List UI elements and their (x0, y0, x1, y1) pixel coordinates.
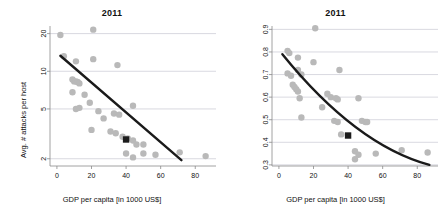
scatter-point (310, 59, 316, 65)
scatter-point (152, 152, 158, 158)
scatter-point (81, 91, 87, 97)
scatter-point (140, 150, 146, 156)
scatter-point (338, 131, 344, 137)
scatter-point (87, 100, 93, 106)
scatter-point (123, 150, 129, 156)
scatter-point (90, 26, 96, 32)
scatter-point (288, 72, 294, 78)
x-axis-tick-label: 0 (277, 172, 281, 179)
x-axis-tick-label: 60 (157, 172, 165, 179)
scatter-point (373, 150, 379, 156)
y-axis-tick-label: 10 (41, 67, 48, 75)
scatter-point (76, 105, 82, 111)
scatter-point (335, 96, 341, 102)
scatter-point (286, 50, 292, 56)
scatter-point (133, 141, 139, 147)
scatter-point (130, 154, 136, 160)
plot-area-left: 251020020406080 (0, 0, 224, 218)
y-axis-tick-label: 0.4 (263, 137, 270, 147)
scatter-point (116, 111, 122, 117)
scatter-point (140, 141, 146, 147)
scatter-point (76, 80, 82, 86)
plot-area-right: 0.30.40.50.60.70.80.9020406080 (224, 0, 447, 218)
y-axis-tick-label: 0.8 (263, 47, 270, 57)
x-axis-tick-label: 20 (310, 172, 318, 179)
x-axis-tick-label: 40 (344, 172, 352, 179)
y-axis-tick-label: 0.9 (263, 24, 270, 34)
y-axis-tick-label: 0.5 (263, 115, 270, 125)
y-axis-tick-label: 2 (41, 157, 48, 161)
x-axis-tick-label: 0 (55, 172, 59, 179)
scatter-point (295, 88, 301, 94)
y-axis-tick-label: 0.6 (263, 92, 270, 102)
x-axis-label-left: GDP per capita [in 1000 US$] (0, 195, 224, 204)
scatter-point (352, 156, 358, 162)
scatter-point (364, 119, 370, 125)
chart-panel-left: 2011 Avg. # attacks per host 25102002040… (0, 0, 224, 218)
scatter-point (336, 67, 342, 73)
figure-container: 2011 Avg. # attacks per host 25102002040… (0, 0, 447, 218)
x-axis-tick-label: 20 (88, 172, 96, 179)
y-axis-tick-label: 0.3 (263, 160, 270, 170)
y-axis-tick-label: 0.7 (263, 70, 270, 80)
y-axis-tick-label: 20 (41, 30, 48, 38)
x-axis-tick-label: 40 (122, 172, 130, 179)
scatter-point (398, 147, 404, 153)
x-axis-tick-label: 60 (379, 172, 387, 179)
highlight-marker (345, 132, 351, 138)
scatter-point (57, 32, 63, 38)
scatter-point (202, 153, 208, 159)
scatter-point (335, 119, 341, 125)
scatter-point (319, 104, 325, 110)
scatter-point (295, 54, 301, 60)
scatter-point (73, 58, 79, 64)
scatter-point (100, 115, 106, 121)
y-axis-tick-label: 5 (41, 107, 48, 111)
x-axis-tick-label: 80 (413, 172, 421, 179)
scatter-point (176, 149, 182, 155)
highlight-marker (123, 136, 129, 142)
scatter-point (88, 127, 94, 133)
scatter-point (355, 95, 361, 101)
scatter-point (90, 56, 96, 62)
scatter-point (296, 95, 302, 101)
scatter-point (113, 130, 119, 136)
x-axis-tick-label: 80 (191, 172, 199, 179)
scatter-point (95, 108, 101, 114)
chart-panel-right: 2011 % attacked hosts 0.30.40.50.60.70.8… (224, 0, 447, 218)
scatter-point (69, 89, 75, 95)
scatter-point (312, 25, 318, 31)
scatter-point (130, 103, 136, 109)
scatter-point (298, 114, 304, 120)
scatter-point (424, 149, 430, 155)
scatter-point (114, 62, 120, 68)
x-axis-label-right: GDP per capita [in 1000 US$] (224, 195, 447, 204)
